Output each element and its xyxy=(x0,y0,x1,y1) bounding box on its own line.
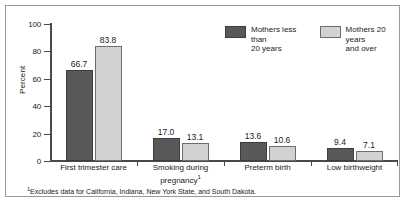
bar: 17.0 xyxy=(153,138,180,161)
y-tick-label: 80 xyxy=(33,47,42,56)
bar-value-label: 13.6 xyxy=(245,131,262,141)
x-tick xyxy=(224,161,225,166)
chart-figure: Percent 020406080100 66.783.8First trime… xyxy=(0,0,414,205)
bar: 66.7 xyxy=(66,70,93,161)
light-swatch-icon xyxy=(320,26,341,38)
category-footnote-marker: 1 xyxy=(198,174,201,180)
y-tick-label: 20 xyxy=(33,129,42,138)
bar-value-label: 9.4 xyxy=(334,137,346,147)
bar: 10.6 xyxy=(269,146,296,161)
y-tick xyxy=(44,79,50,80)
bar-value-label: 66.7 xyxy=(71,59,88,69)
y-tick-label: 60 xyxy=(33,74,42,83)
y-axis-label: Percent xyxy=(18,66,27,94)
legend-label: Mothers less than 20 years xyxy=(251,25,306,54)
bar: 83.8 xyxy=(95,46,122,161)
x-tick xyxy=(397,161,398,166)
bar: 7.1 xyxy=(356,151,383,161)
bar: 13.6 xyxy=(240,142,267,161)
bar-group: 66.783.8First trimester care xyxy=(66,24,122,161)
footnote-text: Excludes data for California, Indiana, N… xyxy=(30,188,256,195)
bar-value-label: 7.1 xyxy=(363,140,375,150)
legend-item: Mothers 20 years and over xyxy=(320,25,399,54)
y-tick-label: 100 xyxy=(28,20,41,29)
y-tick xyxy=(44,161,50,162)
dark-swatch-icon xyxy=(225,26,246,38)
x-tick xyxy=(311,161,312,166)
y-tick-label: 40 xyxy=(33,102,42,111)
y-tick xyxy=(44,24,50,25)
legend-label: Mothers 20 years and over xyxy=(346,25,399,54)
x-tick xyxy=(137,161,138,166)
bar-value-label: 13.1 xyxy=(187,132,204,142)
bar: 9.4 xyxy=(327,148,354,161)
bar: 13.1 xyxy=(182,143,209,161)
chart-frame: Percent 020406080100 66.783.8First trime… xyxy=(5,5,400,197)
chart-footnote: 1Excludes data for California, Indiana, … xyxy=(27,186,256,195)
y-tick xyxy=(44,51,50,52)
legend-item: Mothers less than 20 years xyxy=(225,25,306,54)
y-tick xyxy=(44,106,50,107)
bar-value-label: 17.0 xyxy=(158,127,175,137)
bar-value-label: 83.8 xyxy=(100,35,117,45)
y-tick xyxy=(44,134,50,135)
chart-legend: Mothers less than 20 yearsMothers 20 yea… xyxy=(225,25,399,54)
bar-group: 17.013.1Smoking during pregnancy1 xyxy=(153,24,209,161)
bar-value-label: 10.6 xyxy=(274,135,291,145)
